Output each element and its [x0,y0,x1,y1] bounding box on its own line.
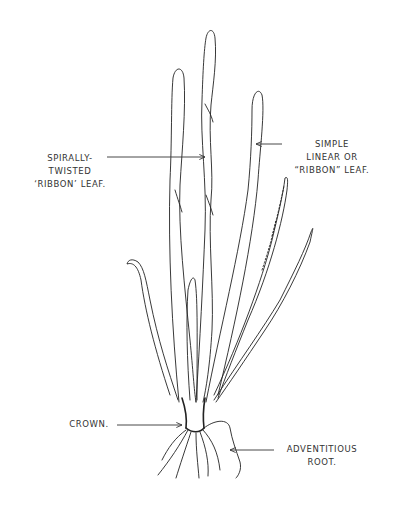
leaf-spiral-tallest [196,31,216,403]
leaf-short-middle [187,278,197,400]
label-root-line1: ADVENTITIOUS [272,443,372,456]
label-simple-line3: “RIBBON” LEAF. [282,164,382,177]
leaf-left-tall [169,69,196,402]
label-simple-leaf: SIMPLE LINEAR OR “RIBBON” LEAF. [282,138,382,177]
roots [158,421,241,478]
label-spiral-line2: TWISTED [28,165,112,178]
label-adventitious-root: ADVENTITIOUS ROOT. [272,443,372,469]
label-crown-line1: CROWN. [62,418,116,431]
plant-illustration [0,0,397,517]
label-spiral-line3: ‘RIBBON’ LEAF. [28,178,112,191]
label-crown: CROWN. [62,418,116,431]
label-simple-line1: SIMPLE [282,138,382,151]
crown [182,398,205,432]
label-spiral-line1: SPIRALLY- [28,152,112,165]
label-root-line2: ROOT. [272,456,372,469]
leaf-right-diagonal [214,228,313,402]
label-spiral-leaf: SPIRALLY- TWISTED ‘RIBBON’ LEAF. [28,152,112,191]
label-simple-line2: LINEAR OR [282,151,382,164]
